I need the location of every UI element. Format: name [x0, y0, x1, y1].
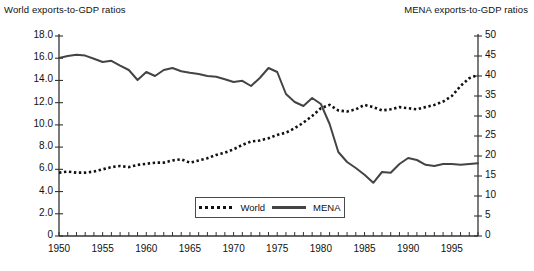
left-axis-tick-label: 16.0: [19, 51, 53, 62]
right-axis-tick-label: 35: [485, 89, 519, 100]
right-axis-tick-label: 50: [485, 29, 519, 40]
legend-label-world: World: [240, 202, 265, 213]
right-axis-tick-label: 25: [485, 129, 519, 140]
right-axis-tick-label: 20: [485, 149, 519, 160]
right-axis-tick-label: 15: [485, 169, 519, 180]
x-axis-tick-label: 1960: [126, 243, 166, 254]
x-axis-tick-label: 1950: [39, 243, 79, 254]
chart-plot-area: [0, 0, 534, 271]
solid-line-swatch-icon: [272, 206, 306, 209]
legend-label-mena: MENA: [313, 202, 340, 213]
series-line-mena: [59, 55, 478, 183]
left-axis-tick-label: 6.0: [19, 162, 53, 173]
x-axis-tick-label: 1975: [257, 243, 297, 254]
series-line-world: [59, 75, 478, 173]
left-axis-tick-label: 4.0: [19, 185, 53, 196]
x-axis-tick-label: 1980: [301, 243, 341, 254]
left-axis-tick-label: 14.0: [19, 73, 53, 84]
right-axis-tick-label: 10: [485, 189, 519, 200]
right-axis-tick-label: 40: [485, 69, 519, 80]
left-axis-tick-label: 0: [19, 229, 53, 240]
chart-series: [59, 55, 478, 183]
right-axis-tick-label: 30: [485, 109, 519, 120]
left-axis-tick-label: 8.0: [19, 140, 53, 151]
right-axis-tick-label: 5: [485, 209, 519, 220]
x-axis-tick-label: 1965: [170, 243, 210, 254]
right-axis-tick-label: 45: [485, 49, 519, 60]
left-axis-tick-label: 2.0: [19, 207, 53, 218]
chart-legend: World MENA: [195, 197, 345, 218]
x-axis-tick-label: 1990: [388, 243, 428, 254]
x-axis-tick-label: 1970: [214, 243, 254, 254]
dotted-line-swatch-icon: [199, 206, 233, 209]
left-axis-tick-label: 12.0: [19, 96, 53, 107]
left-axis-tick-label: 10.0: [19, 118, 53, 129]
x-axis-tick-label: 1995: [432, 243, 472, 254]
x-axis-tick-label: 1985: [345, 243, 385, 254]
right-axis-tick-label: 0: [485, 229, 519, 240]
left-axis-tick-label: 18.0: [19, 29, 53, 40]
x-axis-tick-label: 1955: [83, 243, 123, 254]
